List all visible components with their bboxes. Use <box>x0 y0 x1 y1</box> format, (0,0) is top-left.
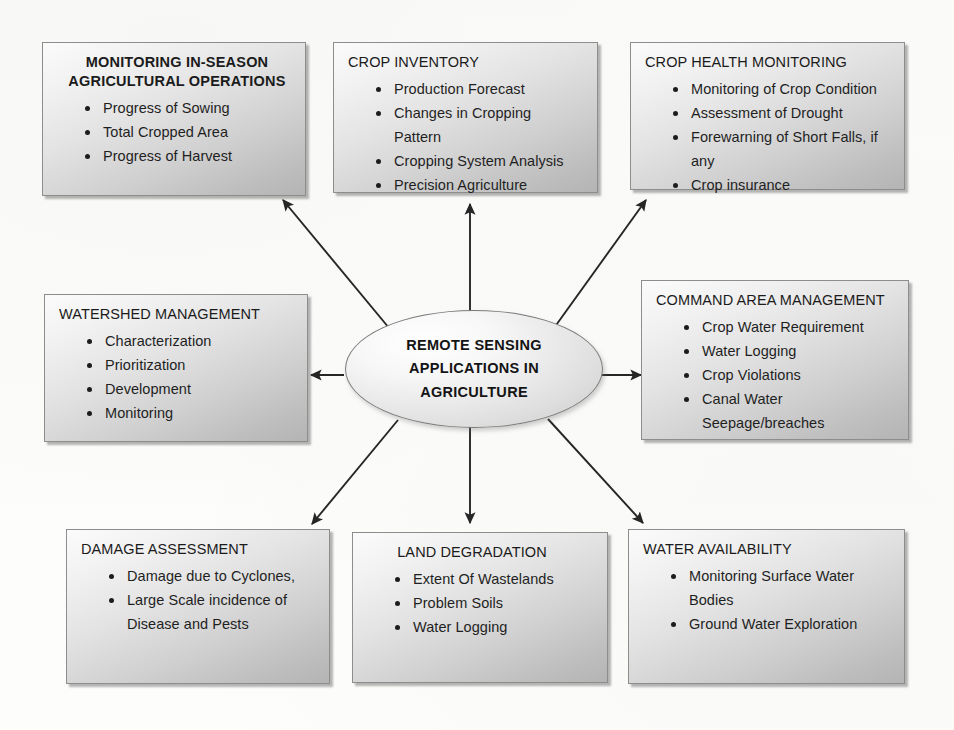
list-item: Damage due to Cyclones, <box>127 565 321 587</box>
arrow-to-crop-health-monitoring <box>549 200 646 335</box>
box-title: CROP HEALTH MONITORING <box>645 53 896 72</box>
list-item: Forewarning of Short Falls, if <box>691 126 896 148</box>
list-item: Characterization <box>105 330 299 352</box>
list-item: Crop insurance <box>691 174 896 196</box>
list-item: Monitoring Surface Water <box>689 565 896 587</box>
list-item: Prioritization <box>105 354 299 376</box>
box-title: DAMAGE ASSESSMENT <box>81 540 321 559</box>
box-title: WATER AVAILABILITY <box>643 540 896 559</box>
list-item: Changes in Cropping <box>394 102 589 124</box>
list-item-continuation: any <box>691 150 896 172</box>
arrow-to-damage-assessment <box>312 420 398 524</box>
diagram-canvas: MONITORING IN-SEASON AGRICULTURAL OPERAT… <box>0 0 954 730</box>
center-node-line: AGRICULTURE <box>420 381 528 404</box>
list-item: Monitoring of Crop Condition <box>691 78 896 100</box>
list-item: Crop Violations <box>702 364 900 386</box>
list-item-continuation: Disease and Pests <box>127 613 321 635</box>
list-item: Assessment of Drought <box>691 102 896 124</box>
list-item: Ground Water Exploration <box>689 613 896 635</box>
list-item: Production Forecast <box>394 78 589 100</box>
box-item-list: Extent Of Wastelands Problem Soils Water… <box>367 568 599 638</box>
list-item: Precision Agriculture <box>394 174 589 196</box>
box-title: MONITORING IN-SEASON AGRICULTURAL OPERAT… <box>57 53 297 91</box>
box-item-list: Monitoring of Crop Condition Assessment … <box>645 78 896 196</box>
list-item: Extent Of Wastelands <box>413 568 599 590</box>
list-item: Progress of Harvest <box>103 145 297 167</box>
list-item: Total Cropped Area <box>103 121 297 143</box>
list-item: Problem Soils <box>413 592 599 614</box>
list-item: Progress of Sowing <box>103 97 297 119</box>
box-item-list: Damage due to Cyclones, Large Scale inci… <box>81 565 321 635</box>
box-watershed-management[interactable]: WATERSHED MANAGEMENT Characterization Pr… <box>44 294 308 442</box>
center-node-remote-sensing-applications-in-agriculture[interactable]: REMOTE SENSING APPLICATIONS IN AGRICULTU… <box>345 310 603 428</box>
box-title-line: AGRICULTURAL OPERATIONS <box>68 73 285 89</box>
list-item-continuation: Seepage/breaches <box>702 412 900 434</box>
box-item-list: Production Forecast Changes in Cropping … <box>348 78 589 196</box>
center-node-line: APPLICATIONS IN <box>409 357 539 380</box>
box-title: WATERSHED MANAGEMENT <box>59 305 299 324</box>
box-item-list: Monitoring Surface Water Bodies Ground W… <box>643 565 896 635</box>
box-title: LAND DEGRADATION <box>367 543 599 562</box>
list-item: Large Scale incidence of <box>127 589 321 611</box>
list-item: Canal Water <box>702 388 900 410</box>
box-title: CROP INVENTORY <box>348 53 589 72</box>
list-item: Water Logging <box>702 340 900 362</box>
list-item: Monitoring <box>105 402 299 424</box>
box-item-list: Progress of Sowing Total Cropped Area Pr… <box>57 97 297 167</box>
box-monitoring-in-season-agricultural-operations[interactable]: MONITORING IN-SEASON AGRICULTURAL OPERAT… <box>42 42 306 196</box>
box-land-degradation[interactable]: LAND DEGRADATION Extent Of Wastelands Pr… <box>352 532 608 683</box>
list-item-continuation: Bodies <box>689 589 896 611</box>
box-command-area-management[interactable]: COMMAND AREA MANAGEMENT Crop Water Requi… <box>641 280 909 440</box>
box-item-list: Characterization Prioritization Developm… <box>59 330 299 424</box>
box-damage-assessment[interactable]: DAMAGE ASSESSMENT Damage due to Cyclones… <box>66 529 330 684</box>
list-item: Water Logging <box>413 616 599 638</box>
center-node-line: REMOTE SENSING <box>406 334 542 357</box>
box-crop-health-monitoring[interactable]: CROP HEALTH MONITORING Monitoring of Cro… <box>630 42 905 190</box>
box-item-list: Crop Water Requirement Water Logging Cro… <box>656 316 900 434</box>
list-item: Cropping System Analysis <box>394 150 589 172</box>
box-title: COMMAND AREA MANAGEMENT <box>656 291 900 310</box>
box-crop-inventory[interactable]: CROP INVENTORY Production Forecast Chang… <box>333 42 598 193</box>
box-water-availability[interactable]: WATER AVAILABILITY Monitoring Surface Wa… <box>628 529 905 684</box>
list-item: Crop Water Requirement <box>702 316 900 338</box>
list-item-continuation: Pattern <box>394 126 589 148</box>
list-item: Development <box>105 378 299 400</box>
arrow-to-water-availability <box>548 419 643 523</box>
box-title-line: MONITORING IN-SEASON <box>86 54 269 70</box>
